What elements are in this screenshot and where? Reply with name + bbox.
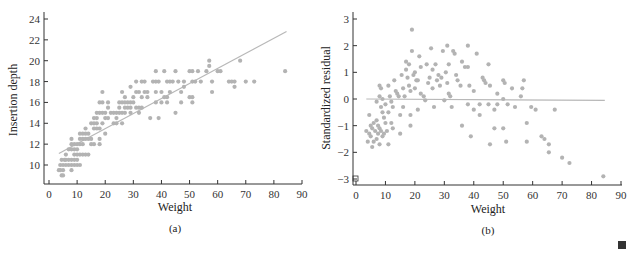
data-point [162, 69, 166, 73]
data-point [486, 62, 490, 66]
data-point [372, 140, 376, 144]
data-point [140, 106, 144, 110]
data-point [207, 59, 211, 63]
data-point [433, 62, 437, 66]
figure: 2422201816141210 0102030405060708090 Wei… [0, 0, 632, 255]
x-tick-label: 40 [468, 189, 480, 201]
data-point [120, 121, 124, 125]
data-point [432, 105, 436, 109]
x-tick-label: 70 [240, 188, 252, 200]
data-point [78, 163, 82, 167]
data-point [486, 102, 490, 106]
data-point [519, 94, 523, 98]
panel-a-x-ticks: 0102030405060708090 [46, 180, 308, 200]
data-point [503, 81, 507, 85]
panel-a-y-axis-title: Insertion depth [6, 64, 20, 136]
data-point [529, 105, 533, 109]
panel-b-zero-reference-line [366, 99, 605, 100]
data-point [488, 84, 492, 88]
data-point [114, 116, 118, 120]
y-tick-label: 10 [29, 159, 41, 171]
data-point [385, 129, 389, 133]
data-point [447, 62, 451, 66]
panel-a-y-ticks: 2422201816141210 [29, 13, 48, 171]
data-point [429, 46, 433, 50]
data-point [408, 89, 412, 93]
data-point [398, 113, 402, 117]
data-point [142, 79, 146, 83]
data-point [445, 44, 449, 48]
data-point [413, 70, 417, 74]
data-point [128, 111, 132, 115]
x-tick-label: 60 [212, 188, 224, 200]
data-point [388, 94, 392, 98]
data-point [386, 110, 390, 114]
data-point [401, 86, 405, 90]
data-point [404, 68, 408, 72]
data-point [430, 86, 434, 90]
data-point [159, 100, 163, 104]
data-point [513, 105, 517, 109]
data-point [190, 100, 194, 104]
data-point [196, 69, 200, 73]
data-point [165, 100, 169, 104]
data-point [252, 79, 256, 83]
x-tick-label: 0 [353, 189, 359, 201]
data-point [100, 90, 104, 94]
data-point [168, 90, 172, 94]
data-point [89, 137, 93, 141]
panel-a-data-points [57, 59, 287, 178]
x-tick-label: 0 [46, 188, 52, 200]
data-point [173, 69, 177, 73]
data-point [83, 126, 87, 130]
data-point [98, 142, 102, 146]
data-point [520, 86, 524, 90]
data-point [75, 158, 79, 162]
x-tick-label: 90 [297, 188, 309, 200]
data-point [157, 79, 161, 83]
panel-a-regression-line [59, 32, 287, 154]
data-point [417, 54, 421, 58]
data-point [64, 152, 68, 156]
data-point [407, 84, 411, 88]
panel-b-y-axis-title: Standardized residual [319, 46, 333, 150]
data-point [69, 137, 73, 141]
data-point [123, 95, 127, 99]
data-point [232, 79, 236, 83]
data-point [435, 78, 439, 82]
data-point [492, 126, 496, 130]
data-point [375, 118, 379, 122]
data-point [106, 116, 110, 120]
data-point [492, 108, 496, 112]
data-point [466, 44, 470, 48]
y-tick-label: 24 [29, 13, 41, 25]
data-point [488, 142, 492, 146]
data-point [232, 85, 236, 89]
data-point [391, 105, 395, 109]
x-tick-label: 30 [128, 188, 140, 200]
data-point [547, 150, 551, 154]
data-point [450, 105, 454, 109]
data-point [460, 60, 464, 64]
data-point [453, 52, 457, 56]
data-point [210, 79, 214, 83]
data-point [98, 137, 102, 141]
y-tick-label: 1 [344, 66, 350, 78]
data-point [61, 173, 65, 177]
data-point [120, 90, 124, 94]
data-point [506, 102, 510, 106]
data-point [448, 94, 452, 98]
data-point [504, 140, 508, 144]
data-point [114, 121, 118, 125]
data-point [553, 108, 557, 112]
data-point [131, 95, 135, 99]
data-point [100, 100, 104, 104]
data-point [173, 111, 177, 115]
data-point [210, 90, 214, 94]
data-point [190, 95, 194, 99]
data-point [75, 147, 79, 151]
y-tick-label: 20 [29, 55, 41, 67]
x-tick-label: 70 [557, 189, 569, 201]
data-point [370, 145, 374, 149]
data-point [400, 73, 404, 77]
